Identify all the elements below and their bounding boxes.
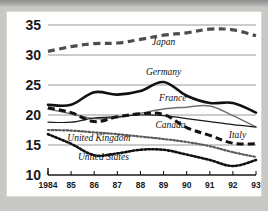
series-label-united-kingdom: United Kingdom: [67, 133, 130, 143]
series-label-canada: Canada: [155, 120, 185, 130]
x-tick-label-92: 92: [228, 180, 238, 190]
x-tick-label-89: 89: [159, 180, 169, 190]
x-tick-label-93: 93: [251, 180, 261, 190]
y-tick-label-25: 25: [25, 77, 41, 93]
series-label-germany: Germany: [146, 67, 182, 77]
x-tick-label-85: 85: [66, 180, 76, 190]
y-axis-labels-group: 353025201510: [25, 17, 41, 183]
x-tick-label-86: 86: [89, 180, 99, 190]
screenshot-root: 353025201510 1984858687888990919293 Japa…: [0, 0, 268, 211]
y-tick-label-15: 15: [25, 137, 41, 153]
series-annotations-group: JapanGermanyFranceCanadaItalyUnited King…: [67, 37, 247, 162]
frame-top-band: [0, 0, 268, 7]
series-line-canada[interactable]: [48, 115, 256, 127]
x-axis-labels-group: 1984858687888990919293: [39, 180, 261, 190]
series-line-germany[interactable]: [48, 82, 256, 113]
x-tick-label-90: 90: [182, 180, 192, 190]
series-label-france: France: [158, 93, 186, 103]
x-tick-label-87: 87: [113, 180, 123, 190]
x-tick-label-88: 88: [136, 180, 146, 190]
series-label-italy: Italy: [228, 130, 247, 140]
series-label-japan: Japan: [152, 37, 175, 47]
series-label-united-states: United States: [78, 152, 129, 162]
y-tick-label-30: 30: [25, 47, 41, 63]
line-chart[interactable]: 353025201510 1984858687888990919293 Japa…: [6, 11, 262, 197]
x-tick-label-1984: 1984: [39, 180, 58, 190]
x-tick-label-91: 91: [205, 180, 215, 190]
y-tick-label-35: 35: [25, 17, 41, 33]
y-tick-label-20: 20: [25, 107, 41, 123]
x-axis-line-group: [48, 168, 256, 175]
